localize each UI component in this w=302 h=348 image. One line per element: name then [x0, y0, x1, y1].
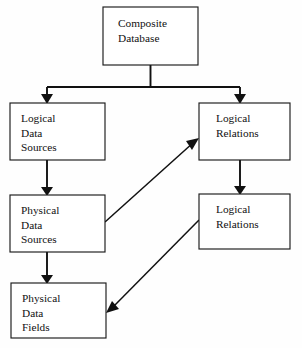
connector-lrbottom-to-pdf: [113, 220, 199, 307]
connector-composite-split-bus: [47, 65, 240, 96]
node-physical-data-fields[interactable]: Physical Data Fields: [11, 283, 106, 338]
diagram-canvas: Composite Database Logical Data Sources …: [0, 0, 302, 348]
diagram-root: Composite Database Logical Data Sources …: [0, 0, 302, 348]
node-logical-relations-bottom[interactable]: Logical Relations: [199, 194, 290, 249]
node-physical-data-sources[interactable]: Physical Data Sources: [10, 195, 105, 252]
node-composite-database[interactable]: Composite Database: [103, 7, 198, 65]
node-logical-relations-top[interactable]: Logical Relations: [199, 103, 290, 160]
connector-pds-to-lrtop: [105, 142, 194, 222]
connector-group: [47, 65, 240, 307]
node-logical-data-sources[interactable]: Logical Data Sources: [10, 103, 105, 160]
